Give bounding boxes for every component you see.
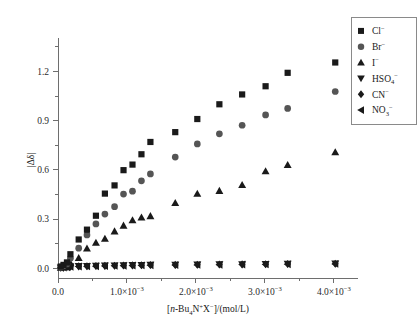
point-Cl−-11: [138, 151, 144, 157]
point-Br−-13: [172, 154, 179, 161]
point-Cl−-5: [84, 227, 90, 233]
point-Cl−-6: [93, 213, 99, 219]
point-Cl−-10: [129, 161, 135, 167]
point-Cl−-7: [102, 190, 108, 196]
x-axis-title: [n-Bu4N+X−]/(mol/L): [167, 303, 249, 316]
point-Br−-10: [129, 188, 136, 195]
point-Br−-19: [332, 88, 339, 95]
scatter-plot: 0.01.0×10−32.0×10−33.0×10−34.0×10−3 0.00…: [0, 0, 420, 333]
point-Br−-12: [147, 171, 154, 178]
legend[interactable]: Cl−Br−I−HSO4−CN−NO3−: [351, 17, 416, 124]
point-Cl−-18: [285, 70, 291, 76]
point-Br−-14: [194, 141, 201, 148]
x-tick-label-0: 0.0: [52, 287, 64, 297]
point-Br−-11: [138, 177, 145, 184]
point-Br−-15: [216, 130, 223, 137]
y-tick-label-1: 0.3: [37, 214, 49, 224]
point-Cl−-15: [216, 101, 222, 107]
x-axis-title-text: [n-Bu4N+X−]/(mol/L): [167, 303, 249, 316]
y-axis-title-text: |Δδ|: [26, 153, 36, 167]
point-Cl−-13: [172, 129, 178, 135]
point-Br−-9: [120, 191, 127, 198]
point-Cl−-3: [67, 251, 73, 257]
point-Br−-6: [93, 221, 100, 228]
y-tick-label-2: 0.6: [37, 165, 49, 175]
point-Cl−-12: [147, 139, 153, 145]
point-Br−-17: [262, 112, 269, 119]
y-tick-label-3: 0.9: [37, 116, 49, 126]
point-Br−-18: [284, 105, 291, 112]
legend-marker-circle-icon: [358, 44, 364, 50]
legend-marker-square-icon: [358, 28, 364, 34]
point-Br−-7: [102, 211, 109, 218]
point-Cl−-9: [120, 167, 126, 173]
y-axis-title: |Δδ|: [26, 153, 36, 167]
point-Br−-16: [239, 122, 246, 129]
point-Cl−-19: [332, 59, 338, 65]
y-tick-label-0: 0.0: [37, 264, 49, 274]
y-tick-label-4: 1.2: [37, 67, 49, 77]
point-Cl−-17: [262, 83, 268, 89]
point-Br−-8: [111, 203, 118, 210]
point-Cl−-2: [64, 259, 70, 265]
point-Cl−-8: [111, 182, 117, 188]
point-Cl−-14: [194, 116, 200, 122]
figure-container: 0.01.0×10−32.0×10−33.0×10−34.0×10−3 0.00…: [0, 0, 420, 333]
point-Br−-4: [75, 245, 82, 252]
point-Cl−-4: [76, 236, 82, 242]
point-Cl−-16: [239, 91, 245, 97]
